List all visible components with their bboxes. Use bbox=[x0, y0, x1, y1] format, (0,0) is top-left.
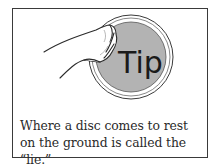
tip-caption: Where a disc comes to rest on the ground… bbox=[20, 117, 206, 167]
hand-holding-disc-illustration: Tip bbox=[0, 0, 218, 100]
tip-label: Tip bbox=[117, 45, 163, 80]
